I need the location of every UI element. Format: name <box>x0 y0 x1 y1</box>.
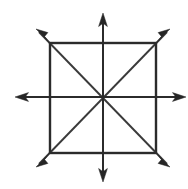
ray-down-left-arrowhead <box>36 154 49 167</box>
ray-up-right-arrowhead <box>157 29 170 42</box>
symmetry-diagram: Square with diagonals and medians, eight… <box>0 0 188 189</box>
ray-up-left-arrowhead <box>36 29 49 42</box>
figure-canvas: Square with diagonals and medians, eight… <box>0 0 188 189</box>
ray-down-right-arrowhead <box>157 154 170 167</box>
